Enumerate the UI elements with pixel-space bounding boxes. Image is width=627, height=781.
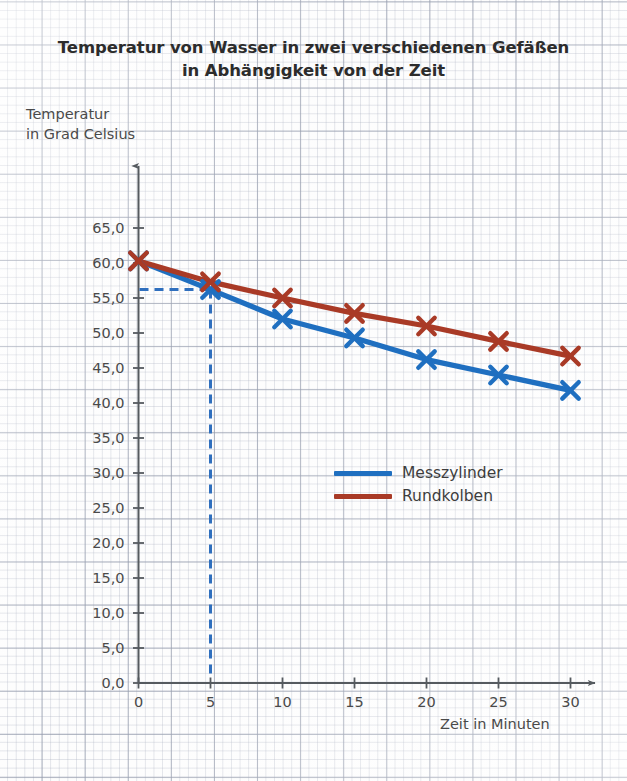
x-axis-tick-label: 20 — [407, 695, 447, 710]
chart-page: Temperatur von Wasser in zwei verschiede… — [0, 0, 627, 781]
y-axis-tick-label: 15,0 — [69, 571, 125, 586]
y-axis-tick-label: 10,0 — [69, 606, 125, 621]
legend-label: Rundkolben — [402, 489, 493, 505]
plot-area — [0, 0, 627, 781]
legend-color-swatch — [334, 471, 392, 476]
construction-lines — [140, 290, 211, 675]
x-axis-tick-label: 30 — [551, 695, 591, 710]
y-axis-tick-label: 65,0 — [69, 221, 125, 236]
legend-label: Messzylinder — [402, 466, 503, 482]
y-axis-tick-label: 40,0 — [69, 396, 125, 411]
legend-color-swatch — [334, 494, 392, 499]
legend-item: Messzylinder — [334, 462, 503, 485]
x-axis-tick-label: 10 — [263, 695, 303, 710]
legend-item: Rundkolben — [334, 485, 503, 508]
y-axis-tick-label: 50,0 — [69, 326, 125, 341]
x-axis-tick-label: 15 — [335, 695, 375, 710]
data-series-layer — [130, 253, 578, 399]
x-axis-tick-label: 0 — [119, 695, 159, 710]
chart-legend: MesszylinderRundkolben — [334, 462, 503, 508]
y-axis-tick-label: 60,0 — [69, 256, 125, 271]
y-axis-tick-label: 20,0 — [69, 536, 125, 551]
y-axis-tick-label: 25,0 — [69, 501, 125, 516]
y-axis-tick-label: 30,0 — [69, 466, 125, 481]
x-axis-tick-label: 25 — [479, 695, 519, 710]
x-axis-tick-label: 5 — [191, 695, 231, 710]
y-axis-tick-label: 0,0 — [69, 676, 125, 691]
y-axis-tick-label: 45,0 — [69, 361, 125, 376]
y-axis-tick-label: 55,0 — [69, 291, 125, 306]
y-axis-tick-label: 35,0 — [69, 431, 125, 446]
y-axis-tick-label: 5,0 — [69, 641, 125, 656]
